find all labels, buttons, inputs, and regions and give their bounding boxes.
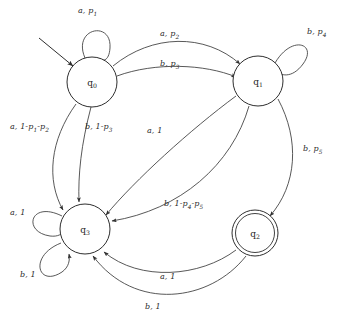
edge-label-q2-q3-b: b, 1 (145, 302, 161, 313)
start-arrow (39, 38, 73, 66)
state-node-q3[interactable]: q3 (60, 204, 110, 254)
edge-label-q2-q3-a: a, 1 (160, 272, 175, 283)
state-node-q2[interactable]: q2 (232, 210, 278, 256)
state-node-q0[interactable]: q0 (67, 57, 117, 107)
edge-label-q1-q3-a: a, 1 (147, 126, 162, 137)
state-node-q1[interactable]: q1 (233, 56, 283, 106)
edge-label-q1-q2-b: b, p5 (303, 144, 323, 155)
edge-label-q1-q3-b: b, 1-p4-p5 (164, 199, 203, 210)
edge-q0-q3-a (53, 104, 76, 210)
edge-q1-q3-a (106, 96, 236, 215)
edge-label-q0-q1-a: a, p2 (160, 29, 179, 40)
edge-q3-q3-a (33, 212, 64, 237)
edge-label-q0-q1-b: b, p3 (160, 59, 180, 70)
fsm-diagram: q0 q1 q2 q3 a, p1 a, p2 b, p3 b, p4 a, 1… (0, 0, 346, 330)
edge-label-q1-q1-b: b, p4 (307, 27, 327, 38)
edge-label-q3-q3-b: b, 1 (20, 270, 36, 281)
edge-q3-q3-b (40, 243, 69, 276)
edge-label-q0-q3-a: a, 1-p1-p2 (10, 122, 49, 133)
edge-q1-q2-b (270, 99, 293, 216)
edge-label-q0-q0-a: a, p1 (78, 6, 97, 17)
edge-q2-q3-a (104, 250, 236, 272)
edge-label-q0-q3-b: b, 1-p3 (85, 122, 113, 133)
edge-q0-q0-a (82, 31, 110, 61)
edge-label-q3-q3-a: a, 1 (10, 208, 25, 219)
